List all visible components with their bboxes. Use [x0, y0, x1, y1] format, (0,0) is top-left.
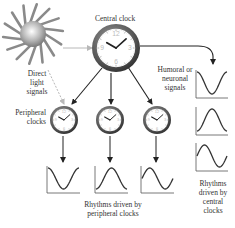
central-clock-icon: 12369: [92, 24, 140, 72]
peripheral-clock-icon: 12369: [143, 106, 171, 134]
rhythm-curve: [48, 168, 79, 189]
direct-light-label-line2: light: [22, 78, 52, 87]
direct-light-label: Direct light signals: [22, 69, 52, 96]
clock-tick: [162, 128, 163, 129]
arrow-central-to-peripheral-3: [128, 67, 152, 104]
arrow-central-to-peripheral-1: [72, 68, 102, 104]
clock-tick: [105, 128, 106, 129]
peripheral-label-line1: Peripheral: [6, 108, 46, 117]
sun-ray: [23, 6, 25, 25]
clock-numeral: 9: [55, 117, 57, 122]
sun-ray: [12, 13, 22, 29]
clock-numeral: 6: [156, 126, 158, 131]
clock-numeral: 6: [63, 126, 65, 131]
clock-tick: [101, 125, 102, 126]
clock-tick: [152, 128, 153, 129]
central-clock-label: Central clock: [95, 14, 135, 23]
clock-numeral: 12: [62, 109, 66, 114]
clock-numeral: 6: [109, 126, 111, 131]
clock-tick: [69, 128, 70, 129]
sun-ray: [7, 43, 25, 49]
arrow-central-to-rhythms: [140, 46, 213, 64]
rhythm-central-3: [196, 143, 228, 171]
clock-tick: [105, 111, 106, 112]
clock-numeral: 9: [100, 44, 104, 51]
rhythm-curve: [197, 72, 227, 94]
rhythm-curve: [197, 145, 227, 167]
clock-numeral: 12: [112, 30, 120, 37]
clock-tick: [152, 111, 153, 112]
humoral-label-line1: Humoral or: [153, 65, 197, 74]
sun-icon: [3, 4, 63, 64]
rhythm-curve: [142, 168, 173, 189]
sun-ray: [17, 46, 31, 59]
sun-ray: [36, 9, 50, 22]
clock-tick: [115, 128, 116, 129]
clock-tick: [101, 115, 102, 116]
rhythms-central-line1: Rhythms: [193, 179, 233, 188]
humoral-signals-label: Humoral or neuronal signals: [153, 65, 197, 92]
clock-tick: [162, 111, 163, 112]
peripheral-label-line2: clocks: [6, 117, 46, 126]
clock-tick: [72, 125, 73, 126]
sun-ray: [3, 37, 22, 39]
clock-tick: [148, 125, 149, 126]
peripheral-clock-icon: 12369: [50, 106, 78, 134]
direct-light-label-line3: signals: [22, 87, 52, 96]
rhythms-peripheral-line2: peripheral clocks: [78, 209, 148, 218]
clock-tick: [118, 125, 119, 126]
sun-ray: [44, 29, 63, 31]
clock-numeral: 3: [71, 117, 73, 122]
clock-tick: [118, 115, 119, 116]
humoral-label-line2: neuronal: [153, 74, 197, 83]
clock-tick: [59, 128, 60, 129]
rhythm-curve: [197, 109, 227, 131]
rhythm-central-1: [196, 70, 228, 98]
rhythm-curve: [96, 168, 127, 189]
clock-numeral: 9: [148, 117, 150, 122]
rhythms-central-line3: central: [193, 197, 233, 206]
plot-axes: [95, 166, 128, 193]
rhythms-central-label: Rhythms driven by central clocks: [193, 179, 233, 215]
rhythm-peripheral-1: [47, 166, 80, 193]
humoral-label-line3: signals: [153, 83, 197, 92]
peripheral-clocks-label: Peripheral clocks: [6, 108, 46, 126]
rhythm-central-2: [196, 107, 228, 135]
rhythms-peripheral-line1: Rhythms driven by: [78, 200, 148, 209]
sun-ray: [29, 46, 35, 64]
clock-tick: [59, 111, 60, 112]
central-rhythm-plots: [196, 70, 228, 171]
clock-tick: [55, 115, 56, 116]
direct-light-label-line1: Direct: [22, 69, 52, 78]
clock-numeral: 3: [164, 117, 166, 122]
sun-ray: [44, 39, 54, 55]
clock-tick: [69, 111, 70, 112]
clock-tick: [148, 115, 149, 116]
rhythms-central-line2: driven by: [193, 188, 233, 197]
plot-axes: [196, 107, 228, 135]
clock-tick: [165, 115, 166, 116]
clock-numeral: 3: [117, 117, 119, 122]
peripheral-rhythm-plots: [47, 166, 174, 193]
sun-ray: [30, 4, 36, 22]
clock-tick: [72, 115, 73, 116]
clock-tick: [165, 125, 166, 126]
sun-ray: [40, 18, 58, 24]
clock-numeral: 9: [101, 117, 103, 122]
clock-numeral: 6: [114, 58, 118, 65]
sun-ray: [40, 43, 42, 62]
clock-numeral: 3: [128, 44, 132, 51]
rhythm-peripheral-2: [95, 166, 128, 193]
sun-disc: [20, 21, 46, 47]
clock-numeral: 12: [155, 109, 159, 114]
rhythm-peripheral-3: [141, 166, 174, 193]
clock-numeral: 12: [108, 109, 112, 114]
clock-tick: [115, 111, 116, 112]
peripheral-clock-icon: 12369: [96, 106, 124, 134]
clock-tick: [55, 125, 56, 126]
rhythms-peripheral-label: Rhythms driven by peripheral clocks: [78, 200, 148, 218]
rhythms-central-line4: clocks: [193, 206, 233, 215]
